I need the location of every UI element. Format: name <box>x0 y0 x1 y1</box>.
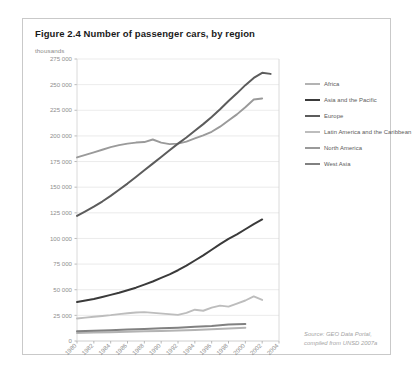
legend-swatch-icon <box>305 163 320 166</box>
y-axis-tick-label: 50 000 <box>53 286 72 293</box>
x-axis-tick-label: 2000 <box>232 341 247 356</box>
legend-swatch-icon <box>305 99 320 102</box>
x-axis-tick-label: 1982 <box>80 341 95 356</box>
legend-item[interactable]: Latin America and the Caribbean <box>305 124 391 140</box>
x-axis-tick-label: 1992 <box>164 341 179 356</box>
source-note: Source: GEO Data Portal, compiled from U… <box>304 330 392 347</box>
legend-item[interactable]: Asia and the Pacific <box>305 92 391 108</box>
x-axis-tick-label: 1994 <box>181 341 196 356</box>
y-axis-tick-label: 250 000 <box>50 81 73 88</box>
chart-legend: AfricaAsia and the PacificEuropeLatin Am… <box>305 76 391 172</box>
x-axis-tick-label: 2004 <box>265 341 280 356</box>
legend-swatch-icon <box>305 131 320 134</box>
figure-card: Figure 2.4 Number of passenger cars, by … <box>22 18 391 355</box>
legend-item-label: Africa <box>324 81 339 87</box>
x-axis-tick-label: 1980 <box>63 341 78 356</box>
legend-item-label: North America <box>324 145 362 151</box>
legend-item-label: Asia and the Pacific <box>324 97 377 103</box>
x-axis-tick-label: 1990 <box>147 341 162 356</box>
legend-item-label: Latin America and the Caribbean <box>324 129 411 135</box>
y-axis-tick-label: 275 000 <box>50 55 73 62</box>
x-axis-tick-label: 1998 <box>215 341 230 356</box>
x-axis-tick-label: 1986 <box>114 341 129 356</box>
legend-item[interactable]: Europe <box>305 108 391 124</box>
x-axis-tick-label: 2002 <box>248 341 263 356</box>
legend-swatch-icon <box>305 83 320 86</box>
legend-item[interactable]: North America <box>305 140 391 156</box>
y-axis-tick-label: 225 000 <box>50 106 73 113</box>
y-axis-tick-label: 200 000 <box>50 132 73 139</box>
legend-item-label: Europe <box>324 113 343 119</box>
y-axis-tick-label: 75 000 <box>53 260 72 267</box>
y-axis-tick-label: 150 000 <box>50 183 73 190</box>
legend-item[interactable]: West Asia <box>305 156 391 172</box>
legend-item-label: West Asia <box>324 161 351 167</box>
legend-swatch-icon <box>305 115 320 118</box>
y-axis-tick-label: 125 000 <box>50 209 73 216</box>
series-line-north-america <box>77 98 262 157</box>
y-axis-tick-label: 25 000 <box>53 312 72 319</box>
source-line-2: compiled from UNSD 2007a <box>304 339 392 348</box>
x-axis-tick-label: 1988 <box>131 341 146 356</box>
chart-plot-area: 275 000250 000225 000200 000175 000150 0… <box>23 19 392 356</box>
x-axis-tick-label: 1996 <box>198 341 213 356</box>
x-axis-tick-label: 1984 <box>97 341 112 356</box>
y-axis-tick-label: 100 000 <box>50 235 73 242</box>
source-line-1: Source: GEO Data Portal, <box>304 330 392 339</box>
y-axis-tick-label: 175 000 <box>50 158 73 165</box>
line-chart: 275 000250 000225 000200 000175 000150 0… <box>23 19 392 356</box>
legend-item[interactable]: Africa <box>305 76 391 92</box>
legend-swatch-icon <box>305 147 320 150</box>
